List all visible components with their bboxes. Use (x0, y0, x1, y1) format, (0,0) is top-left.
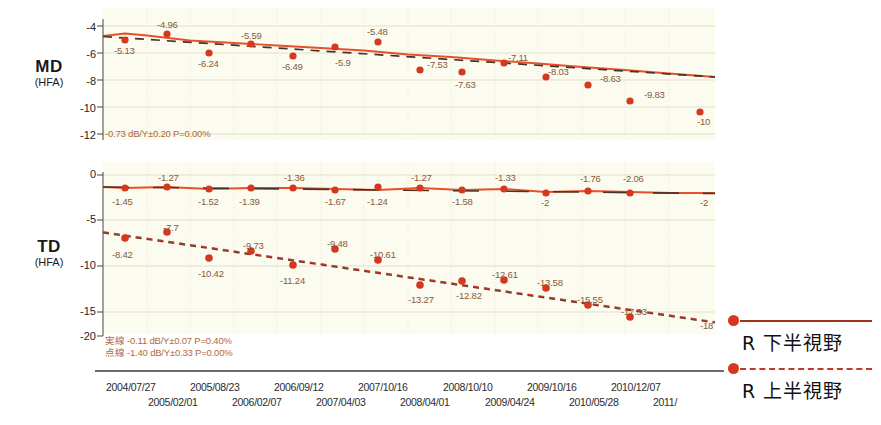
td-lower-point-label: -7.7 (163, 222, 179, 233)
legend-label: R 下半視野 (742, 328, 843, 355)
x-axis-tick-top: 2010/12/07 (611, 381, 661, 393)
td-upper-point-label: -2 (700, 197, 708, 208)
td-upper-point-label: -1.52 (198, 196, 219, 207)
x-axis-tick-top: 2008/10/10 (443, 381, 493, 393)
md-point (626, 97, 633, 104)
legend-dashed-line-icon (740, 368, 872, 370)
td-lower-point-label: -17.33 (621, 306, 647, 317)
td-upper-point-label: -1.67 (325, 196, 346, 207)
td-lower-point-label: -8.42 (112, 249, 133, 260)
md-point-label: -5.59 (241, 30, 262, 41)
x-axis-tick-bottom: 2009/04/24 (485, 396, 535, 408)
td-lower-point (121, 234, 129, 242)
td-upper-point-label: -1.36 (284, 172, 305, 183)
legend: R 下半視野 R 上半視野 (722, 312, 881, 408)
td-upper-point-label: -2 (541, 197, 549, 208)
md-point-label: -5.13 (114, 45, 135, 56)
x-axis-tick-top: 2005/08/23 (190, 381, 240, 393)
md-regression-annotation: -0.73 dB/Y±0.20 P=0.00% (105, 128, 210, 139)
md-point-label: -5.48 (367, 26, 388, 37)
td-upper-point-label: -1.27 (158, 172, 179, 183)
td-upper-point-label: -1.33 (495, 172, 516, 183)
td-lower-point (205, 254, 213, 262)
td-upper-point (205, 185, 212, 192)
x-axis-tick-top: 2004/07/27 (106, 381, 156, 393)
td-upper-point (584, 187, 591, 194)
x-axis-tick-bottom: 2005/02/01 (148, 396, 198, 408)
td-y-axis (97, 172, 103, 336)
td-upper-point (500, 185, 507, 192)
td-upper-point-label: -1.27 (411, 172, 432, 183)
td-upper-point-label: -1.76 (580, 173, 601, 184)
td-dashed-regression-annotation: 点線 -1.40 dB/Y±0.33 P=0.00% (105, 345, 233, 359)
x-axis-tick-bottom: 2010/05/28 (569, 396, 619, 408)
md-point-label: -7.11 (508, 52, 528, 63)
td-lower-point-label: -13.27 (408, 294, 434, 305)
md-point-label: -7.53 (427, 59, 448, 70)
md-point-label: -6.49 (282, 61, 303, 72)
td-upper-point (247, 184, 254, 191)
md-point (584, 81, 591, 88)
md-point-label: -4.96 (157, 19, 178, 30)
td-lower-point-label: -10.42 (198, 268, 224, 279)
md-point (163, 30, 170, 37)
legend-label: R 上半視野 (742, 376, 843, 403)
td-lower-point-label: -10.61 (370, 249, 396, 260)
md-point (289, 52, 296, 59)
x-axis-tick-bottom: 2008/04/01 (400, 396, 450, 408)
md-point (696, 108, 703, 115)
md-point-label: -10 (697, 116, 710, 127)
td-upper-point-label: -1.24 (367, 196, 388, 207)
td-upper-point (458, 186, 465, 193)
td-upper-point (416, 184, 423, 191)
td-upper-point-label: -1.39 (239, 196, 260, 207)
x-axis-tick-top: 2006/09/12 (274, 381, 324, 393)
md-point (331, 43, 338, 50)
td-upper-point (289, 184, 296, 191)
md-y-axis (97, 19, 103, 140)
md-point (374, 38, 381, 45)
md-point (458, 68, 465, 75)
legend-item-upper-hemifield[interactable]: R 上半視野 (722, 360, 881, 408)
md-point (121, 36, 128, 43)
td-upper-point (626, 189, 633, 196)
x-axis-tick-top: 2007/10/16 (358, 381, 408, 393)
x-axis-tick-bottom: 2007/04/03 (316, 396, 366, 408)
td-lower-point (416, 281, 424, 289)
td-upper-point (163, 183, 170, 190)
x-axis-tick-top: 2009/10/16 (527, 381, 577, 393)
md-point-label: -8.63 (600, 73, 621, 84)
md-point-label: -6.24 (198, 58, 219, 69)
td-upper-point (542, 189, 549, 196)
md-point-label: -8.03 (548, 66, 569, 77)
legend-solid-line-icon (740, 320, 872, 322)
td-lower-point-label: -11.24 (280, 275, 305, 286)
x-axis-tick-bottom: 2011/ (653, 396, 677, 408)
td-lower-point-label: -18 (700, 320, 713, 331)
td-lower-point-label: -12.61 (492, 269, 518, 280)
md-point-label: -7.63 (455, 79, 476, 90)
md-point-label: -9.83 (644, 89, 665, 100)
td-lower-point-label: -13.58 (537, 277, 563, 288)
td-lower-point (289, 261, 297, 269)
legend-item-lower-hemifield[interactable]: R 下半視野 (722, 312, 881, 360)
md-point (500, 59, 507, 66)
td-upper-point (121, 184, 128, 191)
td-upper-point (331, 186, 338, 193)
td-upper-point-label: -1.58 (452, 196, 473, 207)
td-lower-point-label: -9.48 (327, 238, 348, 249)
td-lower-point-label: -12.82 (456, 290, 482, 301)
legend-marker-dot-icon (728, 315, 739, 326)
td-upper-point-label: -2.06 (623, 173, 644, 184)
legend-marker-dot-icon (728, 363, 739, 374)
td-upper-point-label: -1.45 (112, 196, 133, 207)
td-upper-point (374, 183, 381, 190)
md-point (247, 40, 254, 47)
visual-field-progression-chart: MD (HFA) TD (HFA) -4 -6 -8 -10 -12 0 -5 … (0, 0, 881, 425)
td-lower-point (458, 277, 466, 285)
td-lower-point-label: -15.55 (577, 294, 603, 305)
md-point-label: -5.9 (335, 57, 351, 68)
md-plot-background (103, 8, 715, 140)
td-lower-point-label: -9.73 (243, 240, 264, 251)
md-point (205, 49, 212, 56)
